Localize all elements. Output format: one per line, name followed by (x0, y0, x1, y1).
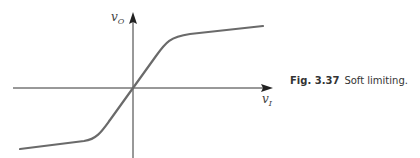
figure-caption: Fig. 3.37Soft limiting. (290, 75, 408, 86)
figure-number: Fig. 3.37 (290, 75, 339, 86)
x-axis (13, 84, 273, 92)
x-axis-label: vI (262, 92, 272, 108)
y-axis-label: vO (111, 10, 124, 26)
figure-caption-text: Soft limiting. (344, 75, 408, 86)
